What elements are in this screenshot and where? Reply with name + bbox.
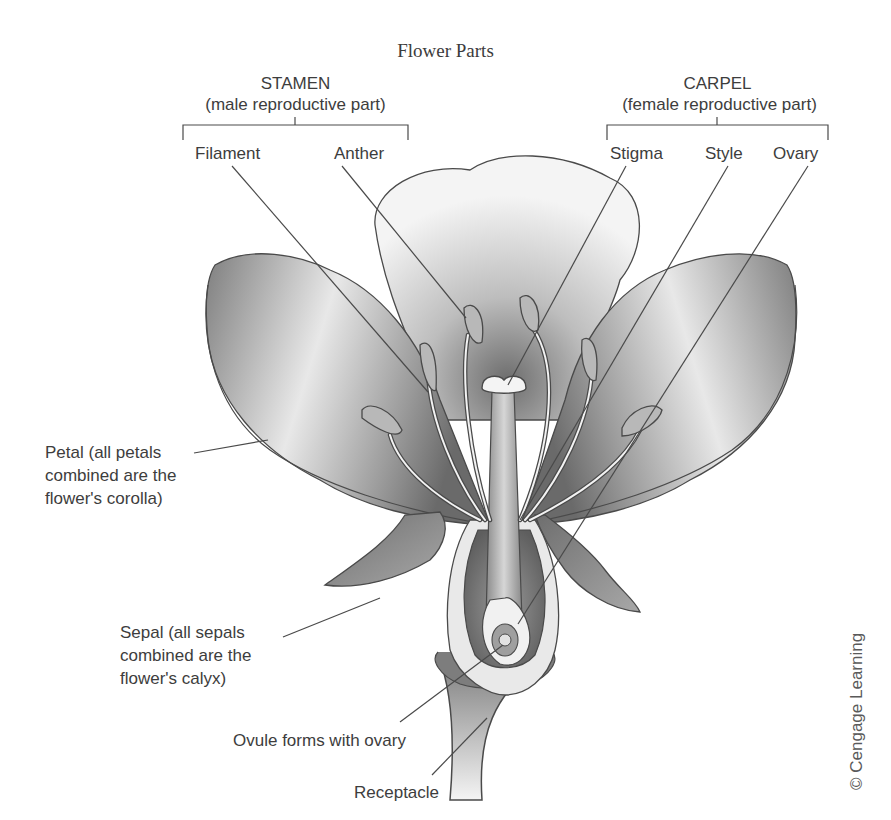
label-sepal-line2: combined are the (120, 645, 251, 666)
carpel-heading: CARPEL (607, 73, 828, 94)
label-ovule: Ovule forms with ovary (233, 730, 406, 751)
label-ovary: Ovary (773, 143, 818, 164)
label-sepal-line3: flower's calyx) (120, 668, 226, 689)
label-petal-line1: Petal (all petals (45, 442, 161, 463)
label-anther: Anther (334, 143, 384, 164)
label-sepal-line1: Sepal (all sepals (120, 622, 245, 643)
label-stigma: Stigma (610, 143, 663, 164)
flower-illustration (0, 0, 891, 820)
carpel-subheading: (female reproductive part) (597, 94, 842, 115)
sepal-left (325, 512, 445, 586)
label-filament: Filament (195, 143, 260, 164)
label-petal-line2: combined are the (45, 465, 176, 486)
label-style: Style (705, 143, 743, 164)
label-receptacle: Receptacle (354, 782, 439, 803)
stamen-subheading: (male reproductive part) (173, 94, 418, 115)
stamen-heading: STAMEN (183, 73, 408, 94)
copyright-credit: © Cengage Learning (847, 633, 867, 790)
style-shape (486, 390, 522, 620)
label-petal-line3: flower's corolla) (45, 488, 163, 509)
